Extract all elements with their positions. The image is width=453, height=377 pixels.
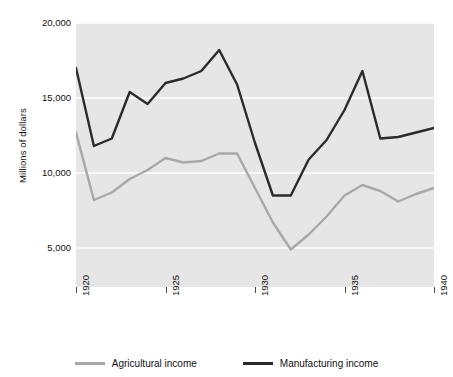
y-tick-label: 15,000 [9, 93, 71, 103]
x-axis: 19201925193019351940 [0, 287, 453, 347]
x-tick-mark [166, 287, 167, 293]
x-tick-label: 1940 [438, 275, 449, 296]
x-tick-label: 1920 [80, 275, 91, 296]
line-chart-figure: Millions of dollars 20,00015,00010,0005,… [0, 0, 453, 377]
x-tick-label: 1925 [170, 275, 181, 296]
series-line-agricultural-income [76, 133, 434, 250]
legend-item-label: Agricultural income [112, 358, 197, 369]
legend-item[interactable]: Agricultural income [75, 358, 197, 369]
y-tick-label: 5,000 [9, 243, 71, 253]
y-tick-label: 20,000 [9, 18, 71, 28]
chart-legend: Agricultural incomeManufacturing income [0, 352, 453, 374]
x-tick-mark [434, 287, 435, 293]
legend-item-label: Manufacturing income [280, 358, 378, 369]
data-series-lines [76, 23, 434, 287]
x-tick-label: 1930 [259, 275, 270, 296]
plot-area [76, 23, 434, 287]
x-tick-mark [76, 287, 77, 293]
legend-line-swatch-icon [243, 362, 273, 365]
legend-line-swatch-icon [75, 362, 105, 365]
y-tick-label: 10,000 [9, 168, 71, 178]
series-line-manufacturing-income [76, 50, 434, 196]
legend-item[interactable]: Manufacturing income [243, 358, 378, 369]
x-tick-mark [345, 287, 346, 293]
x-tick-mark [255, 287, 256, 293]
x-tick-label: 1935 [349, 275, 360, 296]
